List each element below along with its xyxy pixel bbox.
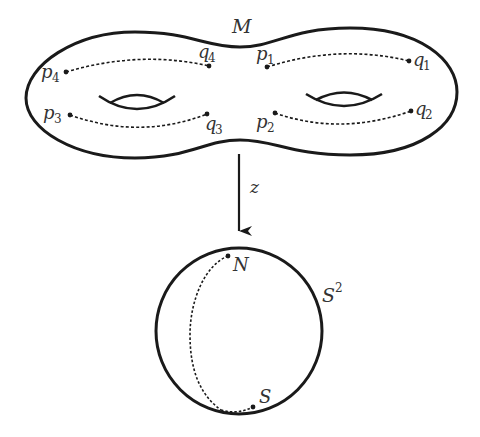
point-q2 — [409, 109, 414, 114]
south-label: S — [259, 386, 271, 407]
curve-p3-q3 — [70, 114, 207, 127]
svg-text:2: 2 — [267, 121, 275, 135]
svg-text:2: 2 — [335, 281, 343, 295]
left-handle-icon — [99, 95, 175, 109]
sphere-label: S 2 — [322, 281, 343, 306]
south-pole-point — [251, 405, 256, 410]
surface-outline — [26, 28, 457, 158]
label-p3: p 3 — [43, 102, 62, 126]
curve-p4-q4 — [66, 59, 209, 72]
label-q1: q 1 — [413, 49, 431, 73]
label-q2: q 2 — [415, 98, 433, 122]
label-p2: p 2 — [256, 111, 275, 135]
diagram-canvas: M p 4 q 4 p 1 q 1 p 3 q 3 p 2 q 2 z N S … — [0, 0, 480, 437]
map-label: z — [249, 177, 260, 197]
point-p2 — [273, 111, 278, 116]
svg-text:4: 4 — [52, 71, 60, 85]
svg-text:S: S — [322, 284, 335, 306]
curve-p1-q1 — [267, 54, 409, 67]
svg-text:1: 1 — [267, 53, 275, 67]
surface-label: M — [231, 15, 252, 37]
svg-text:1: 1 — [423, 59, 431, 73]
point-p4 — [64, 70, 69, 75]
surface-points — [64, 59, 414, 118]
north-label: N — [232, 254, 250, 275]
label-p4: p 4 — [41, 61, 60, 85]
svg-text:3: 3 — [215, 123, 223, 137]
sphere-bottom-dotted — [221, 407, 253, 412]
svg-text:3: 3 — [54, 112, 62, 126]
sphere-meridian-dotted — [190, 256, 228, 410]
north-pole-point — [226, 254, 231, 259]
svg-text:4: 4 — [208, 51, 216, 65]
label-p1: p 1 — [256, 43, 275, 67]
svg-text:2: 2 — [425, 108, 433, 122]
label-q3: q 3 — [205, 113, 223, 137]
right-handle-icon — [306, 93, 382, 107]
curve-p2-q2 — [275, 111, 411, 124]
point-p3 — [68, 113, 73, 118]
point-q1 — [407, 59, 412, 64]
